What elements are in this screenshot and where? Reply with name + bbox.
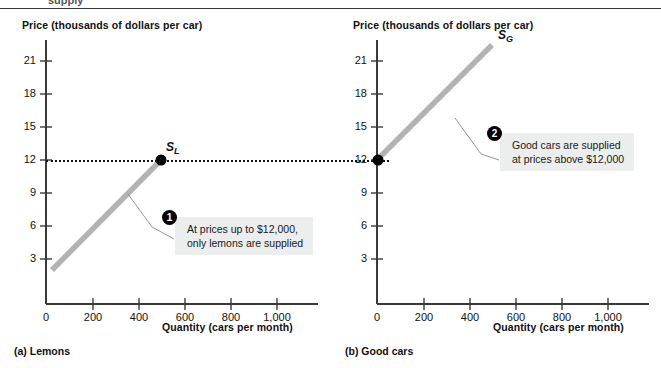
callout-2-line2: at prices above $12,000 [512,152,624,166]
ytick-label: 12 [345,153,367,165]
xtick-label: 0 [357,311,397,323]
xtick-label: 200 [404,311,444,323]
xtick-label: 400 [450,311,490,323]
curve-label-sl: SL [166,140,180,156]
callout-2-line1: Good cars are supplied [512,138,624,152]
x-axis-title: Quantity (cars per month) [162,321,293,333]
ytick-label: 21 [345,54,367,66]
ytick-label: 6 [14,219,36,231]
callout-badge-1: 1 [162,210,177,225]
ytick-label: 15 [345,120,367,132]
panel-lemons: Price (thousands of dollars per car) [0,14,330,368]
ytick-label: 15 [14,120,36,132]
ytick-label: 18 [345,87,367,99]
xtick-label: 400 [119,311,159,323]
xtick-label: 200 [73,311,113,323]
ytick-label: 21 [14,54,36,66]
ytick-label: 6 [345,219,367,231]
curve-label-sl-sub: L [174,146,180,156]
callout-1-line2: only lemons are supplied [187,236,303,250]
callout-badge-2: 2 [487,126,502,141]
curve-label-sg-sub: G [506,34,513,44]
callout-box-1: At prices up to $12,000, only lemons are… [175,217,313,255]
x-axis-title: Quantity (cars per month) [493,321,624,333]
curve-label-sg-text: S [498,28,506,42]
ytick-label: 9 [345,186,367,198]
ytick-label: 12 [14,153,36,165]
clipped-header-text: supply [48,0,348,6]
panel-caption-a: (a) Lemons [14,345,70,357]
panel-caption-b: (b) Good cars [345,345,413,357]
curve-label-sl-text: S [166,140,174,154]
ytick-label: 18 [14,87,36,99]
ytick-label: 3 [14,252,36,264]
callout-box-2: Good cars are supplied at prices above $… [500,133,634,171]
xtick-label: 0 [26,311,66,323]
economics-figure: supply Price (thousands of dollars per c… [0,0,661,368]
callout-1-line1: At prices up to $12,000, [187,222,303,236]
curve-label-sg: SG [498,28,513,44]
header-divider [0,8,661,9]
ytick-label: 9 [14,186,36,198]
ytick-label: 3 [345,252,367,264]
panel-good-cars: Price (thousands of dollars per car) 21 [331,14,661,368]
